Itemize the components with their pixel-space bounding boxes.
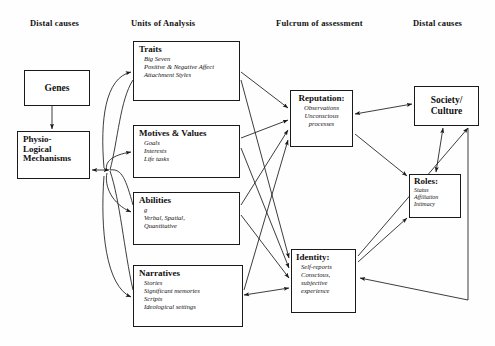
node-genes[interactable]: Genes [24,70,90,106]
node-traits-title: Traits [139,45,235,55]
edge-reputation-society [355,104,412,114]
edge-hub-narratives-b [110,171,133,290]
node-traits-item: Attachment Styles [139,71,235,79]
edge-abilities-identity [241,215,289,278]
edge-identity-roles [358,218,407,262]
node-identity-item: subjective [296,279,353,287]
edge-traits-identity [241,80,289,258]
edge-hub-traits [103,72,131,168]
edge-hub-traits-b [110,80,133,170]
node-identity-item: experience [296,287,353,295]
node-roles-item: Affiliation [414,194,458,201]
node-reputation-item: Unconscious [293,112,350,120]
node-traits-item: Positive & Negative Affect [139,63,235,71]
node-narratives-item: Significant memories [139,287,238,295]
node-reputation-item: Observations [293,104,350,112]
node-narratives-title: Narratives [139,269,238,279]
node-identity-item: Self-reports [296,263,353,271]
edge-reputation-roles [355,134,407,176]
node-physio-title: Physio- Logical Mechanisms [23,135,85,164]
node-roles-item: Status [414,187,458,194]
node-society-title: Society/ Culture [431,95,463,116]
node-abilities-title: Abilities [139,196,235,206]
node-narratives-item: Scripts [139,295,238,303]
node-motives-item: Goals [139,139,235,147]
node-roles-title: Roles: [414,177,458,187]
node-abilities-item: Quantitative [139,222,235,230]
node-motives-item: Life tasks [139,155,235,163]
node-reputation-item: processes [293,120,350,128]
edge-traits-reputation [241,72,288,108]
node-narratives-item: Stories [139,279,238,287]
node-traits[interactable]: Traits Big Seven Positive & Negative Aff… [133,41,240,101]
node-motives-values[interactable]: Motives & Values Goals Interests Life ta… [133,125,240,178]
node-motives-item: Interests [139,147,235,155]
edge-narratives-identity [244,288,289,295]
node-narratives[interactable]: Narratives Stories Significant memories … [133,265,243,327]
edge-hub-narratives [103,176,131,297]
node-abilities[interactable]: Abilities g Verbal, Spatial, Quantitativ… [133,192,240,245]
diagram-canvas: Distal causes Units of Analysis Fulcrum … [0,0,495,346]
node-identity[interactable]: Identity: Self-reports Conscious, subjec… [291,249,356,313]
header-distal-causes-left: Distal causes [30,18,79,28]
node-narratives-item: Ideological settings [139,303,238,311]
node-traits-item: Big Seven [139,55,235,63]
edge-roles-society [436,128,443,172]
node-abilities-item: Verbal, Spatial, [139,214,235,222]
node-abilities-item: g [139,206,235,214]
node-identity-item: Conscious, [296,271,353,279]
node-genes-title: Genes [45,83,70,94]
node-roles[interactable]: Roles: Status Affiliation Intimacy [409,174,461,218]
node-motives-title: Motives & Values [139,129,235,139]
header-distal-causes-right: Distal causes [413,18,462,28]
node-identity-title: Identity: [296,253,353,263]
node-physiological-mechanisms[interactable]: Physio- Logical Mechanisms [17,131,90,179]
node-society-culture[interactable]: Society/ Culture [414,86,479,126]
edge-motives-reputation [241,120,288,138]
header-fulcrum-of-assessment: Fulcrum of assessment [276,18,363,28]
header-units-of-analysis: Units of Analysis [131,18,195,28]
edge-hub-abilities-b [110,170,133,205]
node-reputation[interactable]: Reputation: Observations Unconscious pro… [290,90,353,147]
node-roles-item: Intimacy [414,201,458,208]
node-reputation-title: Reputation: [293,94,350,104]
